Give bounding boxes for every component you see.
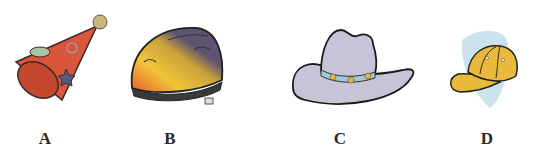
party-hat-icon xyxy=(0,0,120,120)
option-c[interactable]: C xyxy=(285,0,420,162)
option-b[interactable]: B xyxy=(118,0,258,162)
helmet-icon xyxy=(118,0,258,120)
baseball-cap-icon xyxy=(440,0,541,120)
option-label: D xyxy=(472,129,502,149)
option-a[interactable]: A xyxy=(0,0,120,162)
option-label: C xyxy=(325,129,355,149)
option-label: B xyxy=(155,129,185,149)
option-label: A xyxy=(30,129,60,149)
option-d[interactable]: D xyxy=(440,0,541,162)
cowboy-hat-icon xyxy=(285,0,420,120)
